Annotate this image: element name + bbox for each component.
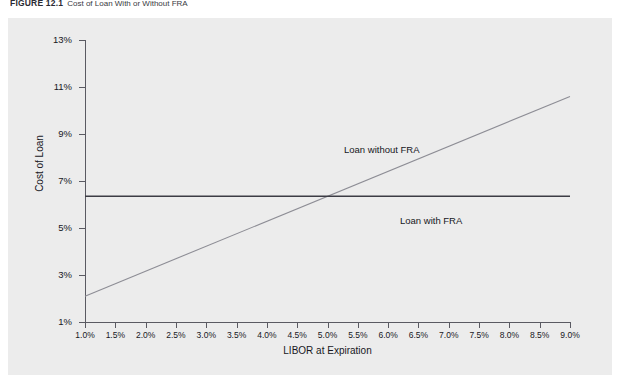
series-lines xyxy=(8,18,612,375)
annotation-loan-without-fra: Loan without FRA xyxy=(344,144,420,155)
y-axis-title: Cost of Loan xyxy=(34,114,45,214)
figure-title: Cost of Loan With or Without FRA xyxy=(67,0,188,8)
chart-panel: 1%3%5%7%9%11%13% 1.0%1.5%2.0%2.5%3.0%3.5… xyxy=(8,18,612,375)
figure-caption: FIGURE 12.1Cost of Loan With or Without … xyxy=(10,0,188,10)
x-axis-title: LIBOR at Expiration xyxy=(85,345,570,356)
plot-area: 1%3%5%7%9%11%13% 1.0%1.5%2.0%2.5%3.0%3.5… xyxy=(8,18,612,375)
figure-number: FIGURE 12.1 xyxy=(10,0,63,8)
annotation-loan-with-fra: Loan with FRA xyxy=(400,215,462,226)
